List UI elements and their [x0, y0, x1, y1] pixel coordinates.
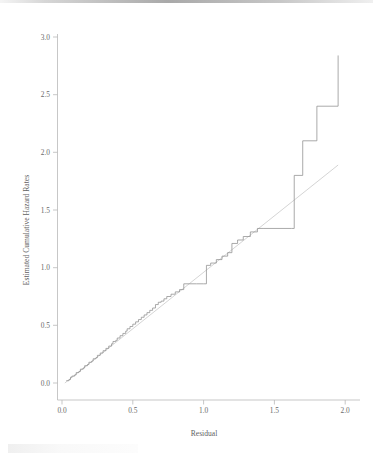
plot-svg: 3.0 2.5 2.0 1.5 1.0 0.5 — [0, 0, 373, 455]
x-tick-label: 2.0 — [341, 406, 351, 415]
y-tick-label: 3.0 — [41, 33, 51, 42]
x-tick-1.5: 1.5 — [270, 400, 280, 415]
y-axis: 3.0 2.5 2.0 1.5 1.0 0.5 — [22, 33, 58, 400]
y-tick-label: 1.0 — [41, 263, 51, 272]
y-tick-0.5: 0.5 — [41, 321, 58, 330]
x-tick-label: 0.0 — [57, 406, 67, 415]
y-tick-label: 2.0 — [41, 148, 51, 157]
x-tick-0.0: 0.0 — [57, 400, 67, 415]
y-tick-3.0: 3.0 — [41, 33, 58, 42]
x-tick-1.0: 1.0 — [199, 400, 209, 415]
y-tick-label: 1.5 — [41, 206, 51, 215]
y-tick-1.0: 1.0 — [41, 263, 58, 272]
y-tick-0.0: 0.0 — [41, 379, 58, 388]
x-tick-label: 1.0 — [199, 406, 209, 415]
cumulative-hazard-step-series — [66, 55, 338, 380]
x-tick-2.0: 2.0 — [341, 400, 351, 415]
y-tick-label: 0.5 — [41, 321, 51, 330]
x-tick-0.5: 0.5 — [128, 400, 138, 415]
y-tick-label: 0.0 — [41, 379, 51, 388]
y-tick-1.5: 1.5 — [41, 206, 58, 215]
y-tick-2.0: 2.0 — [41, 148, 58, 157]
y-tick-2.5: 2.5 — [41, 90, 58, 99]
scan-artifact-bottom — [8, 444, 138, 453]
y-axis-title: Estimated Cumulative Hazard Rates — [22, 175, 31, 285]
x-axis: 0.0 0.5 1.0 1.5 2.0 Residual — [57, 400, 360, 438]
cumulative-hazard-plot: 3.0 2.5 2.0 1.5 1.0 0.5 — [0, 0, 373, 455]
x-axis-title: Residual — [191, 429, 218, 438]
x-tick-label: 1.5 — [270, 406, 280, 415]
x-tick-label: 0.5 — [128, 406, 138, 415]
y-tick-label: 2.5 — [41, 90, 51, 99]
